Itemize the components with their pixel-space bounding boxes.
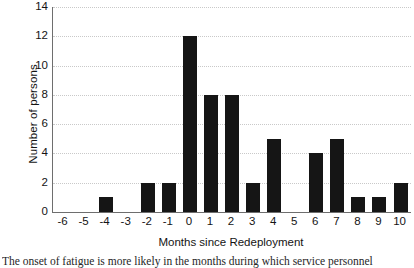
y-axis-tick-label: 4 (18, 148, 48, 160)
bar-slot (179, 7, 200, 212)
bar-series (53, 7, 411, 212)
bar (309, 153, 323, 212)
bar (141, 183, 155, 212)
bar-slot (369, 7, 390, 212)
y-axis-tick-label: 6 (18, 118, 48, 130)
x-axis-tick-label: 5 (284, 215, 305, 227)
bar-slot (285, 7, 306, 212)
x-axis-tick-label: -6 (52, 215, 73, 227)
bar (225, 95, 239, 212)
x-axis-tick-label: 6 (305, 215, 326, 227)
x-axis-tick-label: 4 (263, 215, 284, 227)
bar-slot (264, 7, 285, 212)
y-axis-tick-label: 10 (18, 60, 48, 72)
bar-slot (74, 7, 95, 212)
y-axis-tick-label: 14 (18, 1, 48, 13)
x-axis-tick-label: -5 (73, 215, 94, 227)
y-axis-tick-label: 2 (18, 177, 48, 189)
x-axis-tick-label: 8 (347, 215, 368, 227)
bar-slot (158, 7, 179, 212)
y-axis-tick-label: 8 (18, 89, 48, 101)
bar (394, 183, 408, 212)
bar-slot (137, 7, 158, 212)
x-axis-tick-label: 3 (242, 215, 263, 227)
bar-slot (390, 7, 411, 212)
bar-slot (116, 7, 137, 212)
x-axis-tick-label: -4 (94, 215, 115, 227)
x-axis-tick-label: -1 (157, 215, 178, 227)
x-axis-tick-labels: -6-5-4-3-2-1012345678910 (52, 215, 410, 227)
bar (204, 95, 218, 212)
bar-slot (306, 7, 327, 212)
bar-slot (222, 7, 243, 212)
y-axis-tick-label: 12 (18, 31, 48, 43)
bar (267, 139, 281, 212)
x-axis-title: Months since Redeployment (52, 236, 410, 248)
bar-slot (327, 7, 348, 212)
x-axis-tick-label: 7 (326, 215, 347, 227)
bar (162, 183, 176, 212)
x-axis-tick-label: 1 (199, 215, 220, 227)
x-axis-tick-label: 10 (389, 215, 410, 227)
bar (351, 197, 365, 212)
bar (372, 197, 386, 212)
bar (183, 36, 197, 212)
figure-caption: The onset of fatigue is more likely in t… (2, 255, 412, 268)
bar (330, 139, 344, 212)
x-axis-tick-label: 9 (368, 215, 389, 227)
y-axis-tick-label: 0 (18, 206, 48, 218)
plot-area (52, 7, 411, 213)
x-axis-tick-label: 2 (221, 215, 242, 227)
bar-slot (200, 7, 221, 212)
bar (246, 183, 260, 212)
bar-slot (95, 7, 116, 212)
bar-slot (243, 7, 264, 212)
x-axis-tick-label: 0 (178, 215, 199, 227)
bar (99, 197, 113, 212)
bar-slot (53, 7, 74, 212)
x-axis-tick-label: -3 (115, 215, 136, 227)
bar-slot (348, 7, 369, 212)
x-axis-tick-label: -2 (136, 215, 157, 227)
y-axis-tick-labels: 02468101214 (18, 0, 48, 267)
